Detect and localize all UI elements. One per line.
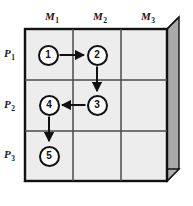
- row-header-p2: P2: [4, 98, 14, 110]
- column-header-m2-text: M: [93, 10, 103, 22]
- column-header-m3-subscript: 3: [151, 16, 155, 25]
- figure-canvas: M1 M2 M3 P1 P2 P3 1 2 3 4 5: [0, 0, 193, 206]
- row-header-p3-text: P: [4, 148, 11, 160]
- column-header-m2: M2: [93, 10, 107, 22]
- column-header-m1-text: M: [45, 10, 55, 22]
- row-header-p2-text: P: [4, 98, 11, 110]
- node-2[interactable]: 2: [87, 45, 108, 66]
- row-header-p2-subscript: 2: [11, 104, 15, 113]
- extrude-right-face: [167, 17, 179, 181]
- row-header-p1: P1: [4, 47, 14, 59]
- node-4[interactable]: 4: [39, 95, 60, 116]
- row-header-p1-text: P: [4, 47, 11, 59]
- column-header-m3: M3: [141, 10, 155, 22]
- node-1[interactable]: 1: [38, 45, 59, 66]
- column-header-m2-subscript: 2: [103, 16, 107, 25]
- node-3[interactable]: 3: [87, 95, 108, 116]
- row-header-p3: P3: [4, 148, 14, 160]
- row-header-p1-subscript: 1: [11, 53, 15, 62]
- column-header-m1-subscript: 1: [55, 16, 59, 25]
- column-header-m3-text: M: [141, 10, 151, 22]
- row-header-p3-subscript: 3: [11, 154, 15, 163]
- column-header-m1: M1: [45, 10, 59, 22]
- node-5[interactable]: 5: [39, 146, 60, 167]
